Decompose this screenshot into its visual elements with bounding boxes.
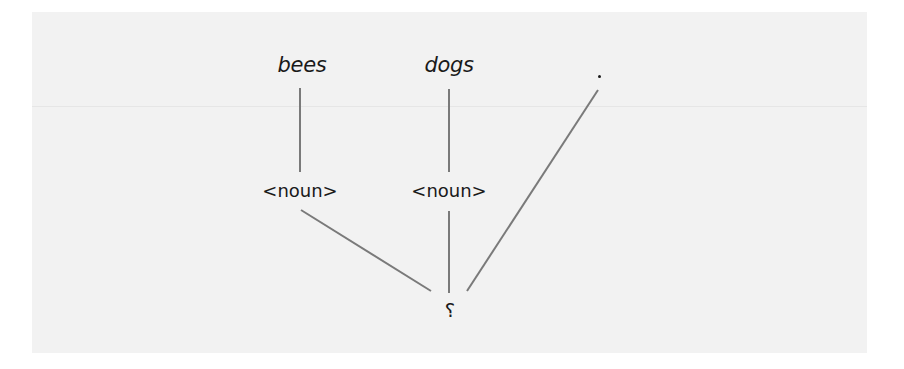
edge-noun1-to-root (301, 210, 431, 291)
node-noun-2: <noun> (411, 182, 486, 200)
root-node: ? (445, 300, 456, 320)
leaf-dogs: dogs (424, 55, 473, 76)
leaf-period (598, 75, 601, 78)
leaf-bees: bees (278, 55, 327, 76)
node-noun-1: <noun> (262, 182, 337, 200)
